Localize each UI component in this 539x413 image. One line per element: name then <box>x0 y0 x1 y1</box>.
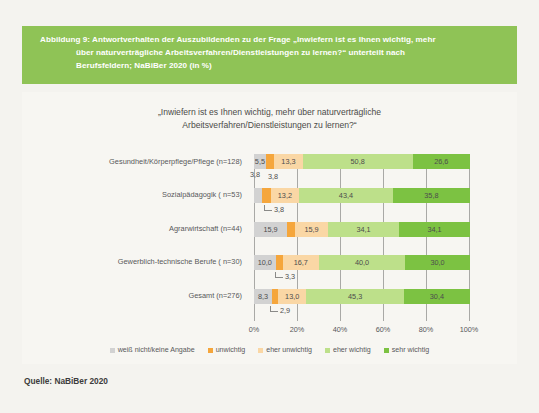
bar-row-agrarwirtschaft[interactable]: 15,9 15,9 34,1 34,1 <box>254 222 470 237</box>
bar-row-gesundheit[interactable]: 5,5 13,3 50,8 26,6 <box>254 154 470 169</box>
legend-label: sehr wichtig <box>392 346 429 354</box>
segment-sehr-wichtig[interactable]: 26,6 <box>413 154 470 169</box>
callout-leader-icon <box>264 205 272 211</box>
category-label-gesundheit: Gesundheit/Körperpflege/Pflege (n=128) <box>109 157 242 166</box>
segment-eher-unwichtig[interactable]: 16,7 <box>283 255 319 270</box>
source-text: Quelle: NaBiBer 2020 <box>24 376 108 386</box>
bar-row-sozialpaedagogik[interactable]: 13,2 43,4 35,8 <box>254 188 470 203</box>
legend-item-unwichtig[interactable]: unwichtig <box>208 346 246 354</box>
segment-eher-wichtig[interactable]: 34,1 <box>328 222 399 237</box>
callout-gesundheit-weiss-nicht: 3,8 <box>250 170 260 179</box>
legend-swatch-icon <box>208 348 213 353</box>
segment-eher-unwichtig[interactable]: 13,2 <box>271 188 299 203</box>
x-axis: 0% 20% 40% 60% 80% 100% <box>254 325 470 337</box>
figure-caption-band: Abbildung 9: Antwortverhalten der Auszub… <box>22 26 517 84</box>
chart-title: „Inwiefern ist es Ihnen wichtig, mehr üb… <box>22 106 517 132</box>
segment-eher-wichtig[interactable]: 43,4 <box>299 188 393 203</box>
callout-value: 3,8 <box>268 172 278 181</box>
category-label-sozialpaedagogik: Sozialpädagogik ( n=53) <box>162 190 242 199</box>
x-tick-20: 20% <box>290 325 305 334</box>
legend-item-eher-wichtig[interactable]: eher wichtig <box>325 346 371 354</box>
legend-swatch-icon <box>258 348 263 353</box>
legend-swatch-icon <box>110 348 115 353</box>
category-label-gewerblich-technische: Gewerblich-technische Berufe ( n=30) <box>118 257 242 266</box>
segment-eher-unwichtig[interactable]: 13,3 <box>274 154 303 169</box>
callout-gesamt-unwichtig: 2,9 <box>270 306 290 315</box>
legend-item-eher-unwichtig[interactable]: eher unwichtig <box>258 346 312 354</box>
chart-title-line-1: „Inwiefern ist es Ihnen wichtig, mehr üb… <box>22 106 517 119</box>
callout-value: 3,8 <box>274 205 284 214</box>
source-line: Quelle: NaBiBer 2020 <box>24 376 108 386</box>
chart-card: „Inwiefern ist es Ihnen wichtig, mehr üb… <box>22 92 517 364</box>
legend-swatch-icon <box>384 348 389 353</box>
legend-label: weiß nicht/keine Angabe <box>118 346 195 354</box>
caption-line-1: Abbildung 9: Antwortverhalten der Auszub… <box>40 33 499 46</box>
legend-swatch-icon <box>325 348 330 353</box>
legend-label: eher unwichtig <box>266 346 312 354</box>
x-tick-40: 40% <box>333 325 348 334</box>
chart-legend: weiß nicht/keine Angabe unwichtig eher u… <box>22 346 517 354</box>
segment-unwichtig[interactable] <box>287 222 295 237</box>
segment-weiss-nicht[interactable]: 10,0 <box>254 255 276 270</box>
legend-label: eher wichtig <box>333 346 371 354</box>
legend-label: unwichtig <box>216 346 246 354</box>
x-tick-60: 60% <box>376 325 391 334</box>
segment-sehr-wichtig[interactable]: 30,0 <box>405 255 470 270</box>
callout-leader-icon <box>275 272 283 278</box>
x-tick-100: 100% <box>460 325 479 334</box>
segment-sehr-wichtig[interactable]: 35,8 <box>393 188 470 203</box>
bar-row-gewerblich-technische[interactable]: 10,0 16,7 40,0 30,0 <box>254 255 470 270</box>
segment-weiss-nicht[interactable]: 8,3 <box>254 289 272 304</box>
x-tick-80: 80% <box>419 325 434 334</box>
callout-gesundheit-unwichtig: 3,8 <box>268 172 278 181</box>
segment-sehr-wichtig[interactable]: 30,4 <box>404 289 470 304</box>
segment-eher-wichtig[interactable]: 40,0 <box>319 255 405 270</box>
x-tick-0: 0% <box>249 325 260 334</box>
category-label-gesamt: Gesamt (n=276) <box>188 291 242 300</box>
callout-value: 2,9 <box>280 306 290 315</box>
legend-item-weiss-nicht[interactable]: weiß nicht/keine Angabe <box>110 346 195 354</box>
segment-weiss-nicht[interactable]: 15,9 <box>254 222 287 237</box>
bar-row-gesamt[interactable]: 8,3 13,0 45,3 30,4 <box>254 289 470 304</box>
segment-eher-wichtig[interactable]: 50,8 <box>303 154 413 169</box>
category-axis: Gesundheit/Körperpflege/Pflege (n=128) S… <box>22 154 248 321</box>
segment-unwichtig[interactable] <box>276 255 283 270</box>
segment-eher-unwichtig[interactable]: 13,0 <box>278 289 306 304</box>
caption-line-2: über naturverträgliche Arbeitsverfahren/… <box>40 46 499 59</box>
callout-sozialpaedagogik-unwichtig: 3,8 <box>264 205 284 214</box>
caption-line-3: Berufsfeldern; NaBiBer 2020 (in %) <box>40 59 499 72</box>
callout-gewerblich-unwichtig: 3,3 <box>275 272 295 281</box>
plot-area: 5,5 13,3 50,8 26,6 3,8 3,8 13,2 43,4 35,… <box>254 154 470 321</box>
callout-leader-icon <box>270 306 278 312</box>
segment-eher-wichtig[interactable]: 45,3 <box>306 289 404 304</box>
segment-weiss-nicht[interactable]: 5,5 <box>254 154 266 169</box>
segment-weiss-nicht[interactable] <box>254 188 262 203</box>
segment-sehr-wichtig[interactable]: 34,1 <box>399 222 470 237</box>
category-label-agrarwirtschaft: Agrarwirtschaft (n=44) <box>169 224 242 233</box>
callout-value: 3,8 <box>250 170 260 179</box>
segment-unwichtig[interactable] <box>266 154 274 169</box>
segment-eher-unwichtig[interactable]: 15,9 <box>295 222 328 237</box>
legend-item-sehr-wichtig[interactable]: sehr wichtig <box>384 346 429 354</box>
figure-page: Abbildung 9: Antwortverhalten der Auszub… <box>0 0 539 413</box>
segment-unwichtig[interactable] <box>262 188 270 203</box>
callout-value: 3,3 <box>285 272 295 281</box>
chart-title-line-2: Arbeitsverfahren/Dienstleistungen zu ler… <box>22 119 517 132</box>
